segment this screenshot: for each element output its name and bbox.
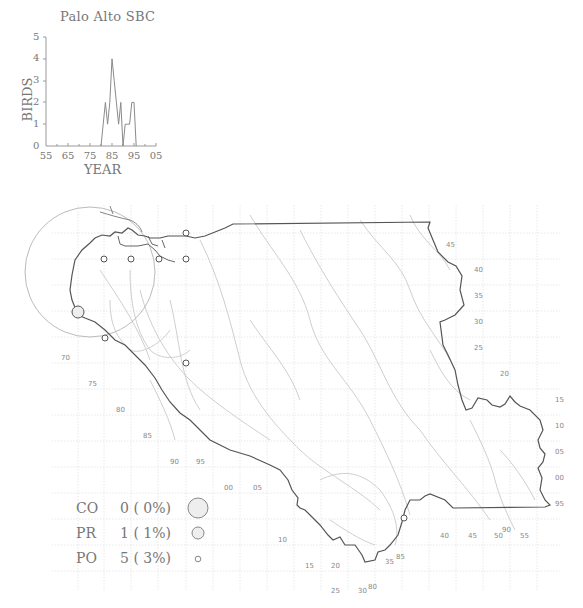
map-grid-label: 25: [474, 344, 483, 352]
map-grid-label: 00: [555, 474, 564, 482]
map-grid-label: 15: [555, 396, 564, 404]
sighting-marker-po: [183, 256, 189, 262]
map-grid-label: 75: [88, 380, 97, 388]
map-grid-label: 80: [368, 583, 377, 591]
map-grid-label: 45: [468, 532, 477, 540]
map-grid-label: 10: [278, 536, 287, 544]
sighting-marker-pr: [72, 306, 84, 318]
sighting-marker-po: [156, 256, 162, 262]
map-grid-label: 35: [474, 292, 483, 300]
map-grid-label: 80: [116, 406, 125, 414]
map-grid-label: 30: [358, 587, 367, 595]
legend-count: 0 ( 0%): [120, 500, 180, 516]
sighting-marker-po: [102, 335, 108, 341]
map-grid-label: 35: [385, 558, 394, 566]
legend-symbol-pr: [192, 527, 204, 539]
map-grid-label: 90: [502, 526, 511, 534]
map-grid-label: 20: [331, 562, 340, 570]
legend-symbol-co: [188, 498, 208, 518]
map-grid-label: 30: [474, 318, 483, 326]
bay-north: [100, 206, 142, 232]
sighting-marker-po: [183, 230, 189, 236]
map-grid-label: 10: [555, 422, 564, 430]
map-grid-label: 25: [331, 587, 340, 595]
sighting-marker-po: [101, 256, 107, 262]
sightings-layer: [72, 230, 407, 521]
map-grid-label: 00: [224, 484, 233, 492]
legend-symbol-po: [195, 556, 201, 562]
legend-code: PO: [76, 550, 106, 566]
map-grid-label: 90: [170, 458, 179, 466]
map-grid-label: 40: [474, 266, 483, 274]
map-grid-label: 70: [61, 354, 70, 362]
map-grid-label: 95: [555, 500, 564, 508]
map-grid-label: 40: [440, 532, 449, 540]
map-grid-label: 15: [305, 562, 314, 570]
map-grid-label: 55: [520, 532, 529, 540]
map-grid-label: 05: [555, 448, 564, 456]
region-map: [0, 0, 583, 608]
sighting-marker-po: [401, 515, 407, 521]
sighting-marker-po: [128, 256, 134, 262]
map-grid-label: 85: [143, 432, 152, 440]
map-grid-label: 20: [500, 370, 509, 378]
legend-code: CO: [76, 500, 106, 516]
map-grid-label: 45: [446, 241, 455, 249]
rivers: [100, 215, 535, 545]
map-grid-label: 95: [196, 458, 205, 466]
legend-code: PR: [76, 525, 106, 541]
legend-count: 5 ( 3%): [120, 550, 180, 566]
map-grid-label: 50: [494, 532, 503, 540]
sighting-marker-po: [183, 360, 189, 366]
map-grid-label: 05: [253, 484, 262, 492]
legend-count: 1 ( 1%): [120, 525, 180, 541]
map-grid-label: 85: [396, 553, 405, 561]
